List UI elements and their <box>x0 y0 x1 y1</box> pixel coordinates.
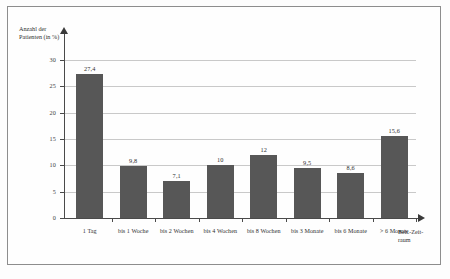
x-axis-tick <box>242 218 243 222</box>
y-axis-tick-label: 25 <box>50 82 56 89</box>
y-axis-line <box>64 33 65 219</box>
bar-value-label: 7,1 <box>157 172 197 179</box>
bar <box>207 165 234 218</box>
y-axis-title: Anzahl der Patienten (in %) <box>19 25 65 41</box>
bar <box>337 173 364 218</box>
x-axis-tick <box>416 218 417 222</box>
bar-value-label: 15,6 <box>374 127 414 134</box>
gridline <box>64 113 416 114</box>
bar <box>294 168 321 218</box>
y-axis-title-line1: Anzahl der <box>19 25 65 33</box>
bar <box>120 166 147 218</box>
bar-value-label: 27,4 <box>70 65 110 72</box>
y-axis-tick-label: 15 <box>50 135 56 142</box>
chart-page: Anzahl der Patienten (in %) Beh.-Zeit- r… <box>0 0 450 279</box>
bar-chart: Anzahl der Patienten (in %) Beh.-Zeit- r… <box>0 0 450 279</box>
gridline <box>64 86 416 87</box>
gridline <box>64 139 416 140</box>
y-axis-arrow-icon <box>60 27 68 34</box>
x-axis-arrow-icon <box>418 214 425 222</box>
x-axis-tick <box>373 218 374 222</box>
y-axis-tick-label: 20 <box>50 109 56 116</box>
x-axis-tick <box>199 218 200 222</box>
x-axis-tick <box>155 218 156 222</box>
gridline <box>64 60 416 61</box>
bar <box>250 155 277 218</box>
y-axis-tick-label: 10 <box>50 161 56 168</box>
bar <box>76 74 103 218</box>
bar-value-label: 10 <box>200 156 240 163</box>
x-axis-tick <box>286 218 287 222</box>
y-axis-tick-label: 5 <box>53 188 56 195</box>
x-axis-category-label: > 6 Monate <box>366 228 422 234</box>
x-axis-tick <box>329 218 330 222</box>
bar <box>163 181 190 218</box>
y-axis-tick-label: 0 <box>53 214 56 221</box>
bar-value-label: 12 <box>244 146 284 153</box>
x-axis-title-line2: raum <box>398 236 438 244</box>
bar-value-label: 9,5 <box>287 159 327 166</box>
bar <box>381 136 408 218</box>
y-axis-title-line2: Patienten (in %) <box>19 33 65 41</box>
y-axis-tick-label: 30 <box>50 56 56 63</box>
bar-value-label: 9,8 <box>113 157 153 164</box>
x-axis-tick <box>112 218 113 222</box>
bar-value-label: 8,6 <box>331 164 371 171</box>
